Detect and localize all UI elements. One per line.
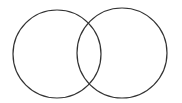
- venn-diagram-canvas: [0, 0, 182, 103]
- venn-diagram: [0, 0, 182, 103]
- right-circle: [77, 8, 167, 98]
